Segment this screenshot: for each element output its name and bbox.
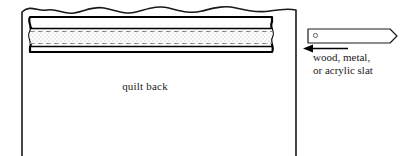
slat-shape bbox=[308, 29, 397, 43]
hanging-sleeve bbox=[24, 17, 280, 52]
diagram-svg bbox=[0, 0, 405, 156]
slat-outline bbox=[308, 29, 397, 43]
slat-caption-line-1: wood, metal, bbox=[313, 51, 373, 64]
figure-canvas: quilt back wood, metal, or acrylic slat bbox=[0, 0, 405, 156]
slat-caption: wood, metal, or acrylic slat bbox=[313, 51, 373, 76]
quilt-back-label: quilt back bbox=[0, 80, 290, 92]
circle-hole-icon bbox=[313, 33, 317, 37]
slat-caption-line-2: or acrylic slat bbox=[313, 64, 373, 77]
